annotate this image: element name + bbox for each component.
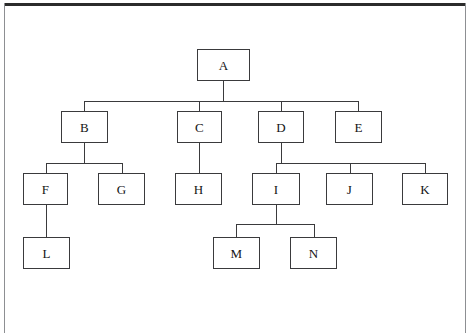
tree-node-label: B [80,121,89,134]
tree-node-label: E [354,121,362,134]
tree-node-label: C [195,121,204,134]
tree-node-label: J [347,183,352,196]
tree-node-label: L [42,247,50,260]
tree-node-n[interactable]: N [290,237,337,269]
tree-node-l[interactable]: L [23,237,70,269]
connector-bus [46,163,122,164]
connector-child-drop [46,163,47,173]
connector-parent-stem [281,143,282,163]
connector-bus [236,224,314,225]
connector-child-drop [199,101,200,111]
connector-bus [84,101,358,102]
tree-node-h[interactable]: H [175,173,222,205]
tree-node-e[interactable]: E [335,111,382,143]
tree-node-g[interactable]: G [98,173,145,205]
connector-child-drop [276,163,277,173]
tree-node-label: D [276,121,286,134]
tree-node-label: N [309,247,319,260]
tree-node-label: K [420,183,430,196]
connector-child-drop [314,224,315,237]
tree-node-c[interactable]: C [177,111,222,143]
connector-parent-stem [223,81,224,101]
connector-parent-stem [46,205,47,224]
connector-child-drop [122,163,123,173]
tree-node-label: H [194,183,204,196]
tree-node-d[interactable]: D [258,111,304,143]
tree-node-label: F [42,183,49,196]
connector-child-drop [199,163,200,173]
connector-child-drop [281,101,282,111]
connector-child-drop [236,224,237,237]
connector-child-drop [358,101,359,111]
page-frame-top-rule [4,3,466,6]
tree-node-j[interactable]: J [326,173,373,205]
tree-node-label: G [117,183,127,196]
connector-parent-stem [84,143,85,163]
page-frame-left-rule [4,3,5,333]
connector-child-drop [350,163,351,173]
connector-child-drop [84,101,85,111]
connector-parent-stem [276,205,277,224]
tree-node-i[interactable]: I [252,173,300,205]
tree-node-label: A [219,59,229,72]
tree-diagram-canvas: ABCDEFGHIJKLMN [0,0,470,333]
tree-node-label: M [231,247,243,260]
connector-child-drop [425,163,426,173]
tree-node-f[interactable]: F [23,173,68,205]
tree-node-m[interactable]: M [213,237,260,269]
connector-child-drop [46,224,47,237]
page-frame-right-rule [465,3,466,333]
tree-node-label: I [274,183,279,196]
tree-node-a[interactable]: A [197,49,250,81]
tree-node-b[interactable]: B [61,111,108,143]
tree-node-k[interactable]: K [402,173,448,205]
connector-parent-stem [199,143,200,163]
